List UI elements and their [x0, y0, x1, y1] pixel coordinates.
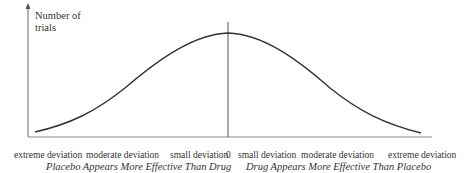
- left-caption: Placebo Appears More Effective Than Drug: [46, 161, 231, 172]
- tick-left-moderate: moderate deviation: [86, 150, 159, 160]
- y-axis-arrow-icon: [26, 3, 31, 9]
- tick-right-moderate: moderate deviation: [301, 150, 374, 160]
- tick-left-extreme: extreme deviation: [14, 150, 82, 160]
- right-caption: Drug Appears More Effective Than Placebo: [246, 161, 431, 172]
- tick-right-extreme: extreme deviation: [388, 150, 456, 160]
- y-axis-label: Number of trials: [35, 10, 95, 34]
- tick-right-small: small deviation: [238, 150, 296, 160]
- y-axis-label-line2: trials: [35, 22, 95, 34]
- tick-zero: 0: [226, 150, 231, 160]
- y-axis-label-line1: Number of: [35, 10, 95, 22]
- tick-left-small: small deviation: [170, 150, 228, 160]
